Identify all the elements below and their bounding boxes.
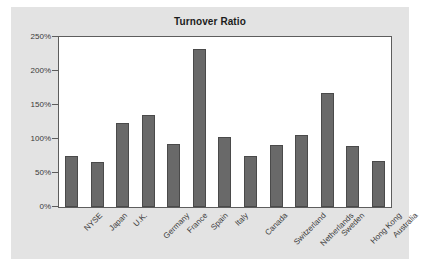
bar-germany [142, 115, 155, 207]
bars-layer [59, 37, 391, 207]
y-tick-label: 200% [31, 66, 51, 75]
y-tick-label: 50% [35, 168, 51, 177]
bar-canada [244, 156, 257, 207]
bar-switzerland [270, 145, 283, 207]
x-tick-label: Italy [233, 211, 250, 228]
y-tick-label: 150% [31, 100, 51, 109]
x-axis: NYSEJapanU.K.GermanyFranceSpainItalyCana… [58, 207, 390, 259]
y-axis: 0%50%100%150%200%250% [11, 7, 58, 207]
bar-spain [193, 49, 206, 207]
bar-hong-kong [346, 146, 359, 207]
x-tick-label: NYSE [82, 211, 104, 233]
y-tick-label: 250% [31, 32, 51, 41]
bar-nyse [65, 156, 78, 207]
chart-figure: Turnover Ratio 0%50%100%150%200%250% NYS… [11, 7, 409, 259]
bar-netherlands [295, 135, 308, 207]
y-tick-label: 100% [31, 134, 51, 143]
bar-japan [91, 162, 104, 207]
y-tick-label: 0% [39, 202, 51, 211]
bar-france [167, 144, 180, 207]
bar-sweden [321, 93, 334, 207]
x-tick-label: U.K. [131, 211, 148, 228]
x-tick-label: Canada [263, 211, 289, 237]
chart-title: Turnover Ratio [11, 16, 409, 27]
bar-u-k- [116, 123, 129, 207]
x-tick-label: Japan [108, 211, 130, 233]
bar-italy [218, 137, 231, 207]
x-tick-label: Spain [209, 211, 230, 232]
bar-australia [372, 161, 385, 207]
plot-area [58, 36, 392, 208]
